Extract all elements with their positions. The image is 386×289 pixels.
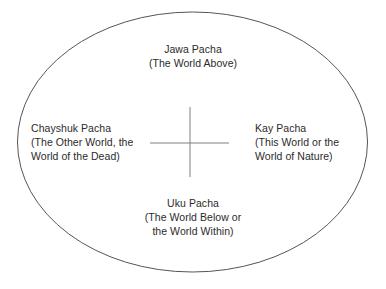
label-kay-pacha-line-3: World of Nature) — [255, 149, 339, 163]
label-uku-pacha-line-3: the World Within) — [0, 224, 386, 238]
label-kay-pacha: Kay Pacha (This World or the World of Na… — [255, 121, 339, 163]
label-chayshuk-pacha-line-2: (The Other World, the — [31, 135, 133, 149]
label-kay-pacha-line-2: (This World or the — [255, 135, 339, 149]
cosmology-diagram: Jawa Pacha (The World Above) Chayshuk Pa… — [0, 0, 386, 289]
label-chayshuk-pacha-line-1: Chayshuk Pacha — [31, 121, 133, 135]
label-uku-pacha-line-2: (The World Below or — [0, 210, 386, 224]
label-chayshuk-pacha: Chayshuk Pacha (The Other World, the Wor… — [31, 121, 133, 163]
label-jawa-pacha-line-1: Jawa Pacha — [0, 42, 386, 56]
label-uku-pacha-line-1: Uku Pacha — [0, 196, 386, 210]
label-jawa-pacha-line-2: (The World Above) — [0, 56, 386, 70]
label-chayshuk-pacha-line-3: World of the Dead) — [31, 149, 133, 163]
label-jawa-pacha: Jawa Pacha (The World Above) — [0, 42, 386, 70]
label-uku-pacha: Uku Pacha (The World Below or the World … — [0, 196, 386, 238]
label-kay-pacha-line-1: Kay Pacha — [255, 121, 339, 135]
